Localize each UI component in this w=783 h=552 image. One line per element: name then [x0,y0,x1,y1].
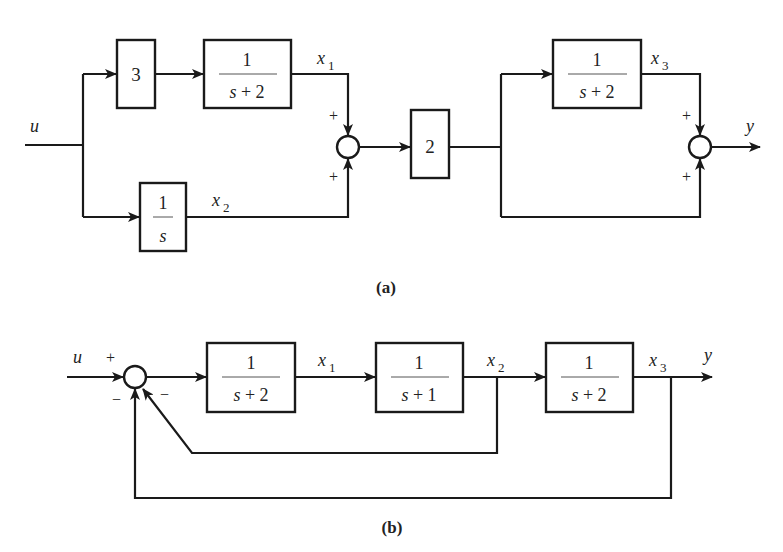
signal-x1-sub: 1 [329,360,336,375]
input-label-u: u [30,116,39,136]
sum2-sign-top: + [682,107,691,124]
signal-x3-sub: 3 [660,360,667,375]
gain2-label: 2 [425,136,435,157]
output-label-y: y [744,116,754,136]
arrow-x3-to-sum2 [641,74,700,135]
signal-x3-sub: 3 [662,58,669,73]
caption-a: (a) [376,278,396,297]
integrator-numerator: 1 [159,193,168,213]
summer-sign-plus: + [106,349,115,366]
summing-junction [124,366,146,388]
tf3-denominator: s + 2 [571,385,606,405]
caption-b: (b) [382,518,403,537]
output-label-y: y [702,345,712,365]
tf1-numerator: 1 [247,353,256,373]
gain3-label: 3 [131,64,141,85]
tf3-denominator: s + 2 [579,82,614,102]
arrow-x2-to-sum1 [186,159,348,217]
signal-x2: x [486,350,495,370]
arrow-bypass-to-sum2 [501,159,700,217]
sum1-sign-top: + [329,107,338,124]
signal-x2-sub: 2 [223,200,230,215]
tf1-denominator: s + 2 [233,385,268,405]
tf3-numerator: 1 [585,353,594,373]
sum2-sign-bottom: + [682,168,691,185]
signal-x1: x [316,48,325,68]
figure-a: u 3 1 s + 2 x 1 + 1 s x 2 + 2 [25,40,760,297]
tf2-denominator: s + 1 [401,385,436,405]
signal-x3: x [648,350,657,370]
arrow-x1-to-sum1 [291,74,348,135]
figure-b: u + − − 1 s + 2 x 1 1 s + 1 x 2 1 s + 2 … [67,343,712,537]
summing-junction-2 [689,136,711,158]
summing-junction-1 [337,136,359,158]
signal-x2-sub: 2 [498,360,505,375]
tf1-numerator: 1 [243,50,252,70]
tf1-denominator: s + 2 [229,82,264,102]
signal-x1: x [317,350,326,370]
summer-sign-minus-vert: − [112,391,121,408]
integrator-denominator: s [159,226,166,246]
tf3-numerator: 1 [593,50,602,70]
tf2-numerator: 1 [415,353,424,373]
signal-x2: x [211,190,220,210]
sum1-sign-bottom: + [329,168,338,185]
signal-x1-sub: 1 [328,58,335,73]
signal-x3: x [650,48,659,68]
summer-sign-minus-diag: − [160,386,169,403]
input-label-u: u [73,347,82,367]
block-diagrams: u 3 1 s + 2 x 1 + 1 s x 2 + 2 [0,0,783,552]
